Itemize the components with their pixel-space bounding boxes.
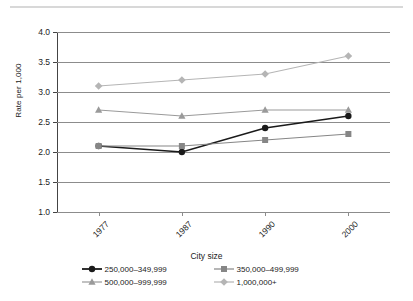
y-tick-label: 3.5 <box>24 57 50 67</box>
x-tick-mark <box>182 212 183 216</box>
legend-marker-triangle-icon <box>82 277 102 287</box>
data-point-marker <box>178 76 186 84</box>
data-point-marker <box>345 131 351 137</box>
y-tick-label: 1.5 <box>24 177 50 187</box>
data-point-marker <box>95 106 102 113</box>
y-tick-label: 4.0 <box>24 27 50 37</box>
plot-area <box>57 32 390 212</box>
legend-label: 1,000,000+ <box>237 278 277 287</box>
legend-item-2[interactable]: 500,000–999,999 <box>82 277 200 287</box>
series-line <box>99 116 349 152</box>
y-tick-label: 3.0 <box>24 87 50 97</box>
x-tick-label: 1977 <box>75 219 110 254</box>
data-point-marker <box>95 82 103 90</box>
data-point-marker <box>221 266 227 272</box>
data-point-marker <box>345 52 353 60</box>
x-tick-label: 2000 <box>325 219 360 254</box>
data-point-marker <box>96 143 102 149</box>
data-point-marker <box>88 266 94 272</box>
legend-item-1[interactable]: 350,000–499,999 <box>214 264 332 274</box>
x-tick-label: 1990 <box>242 219 277 254</box>
x-axis-line <box>57 212 390 213</box>
y-tick-label: 1.0 <box>24 207 50 217</box>
data-point-marker <box>262 137 268 143</box>
legend-row-1: 250,000–349,999 350,000–499,999 <box>0 264 413 274</box>
legend-label: 350,000–499,999 <box>237 265 299 274</box>
data-point-marker <box>261 70 269 78</box>
legend-marker-square-icon <box>214 264 234 274</box>
data-point-marker <box>179 143 185 149</box>
series-line <box>99 56 349 86</box>
data-point-marker <box>262 125 268 131</box>
legend-row-2: 500,000–999,999 1,000,000+ <box>0 277 413 287</box>
x-tick-label: 1987 <box>159 219 194 254</box>
chart-legend: 250,000–349,999 350,000–499,999 500,000–… <box>0 264 413 290</box>
x-tick-mark <box>265 212 266 216</box>
x-tick-mark <box>348 212 349 216</box>
data-point-marker <box>179 149 185 155</box>
series-line <box>99 110 349 116</box>
x-tick-mark <box>99 212 100 216</box>
legend-marker-circle-icon <box>82 264 102 274</box>
legend-label: 500,000–999,999 <box>105 278 167 287</box>
legend-label: 250,000–349,999 <box>105 265 167 274</box>
y-tick-label: 2.5 <box>24 117 50 127</box>
y-tick-label: 2.0 <box>24 147 50 157</box>
series-layer <box>57 32 390 212</box>
legend-marker-diamond-icon <box>214 277 234 287</box>
data-point-marker <box>345 113 351 119</box>
line-chart-figure: Rate per 1,000 1.01.52.02.53.03.54.0 197… <box>0 0 413 301</box>
legend-item-3[interactable]: 1,000,000+ <box>214 277 332 287</box>
data-point-marker <box>220 278 228 286</box>
x-axis-title: City size <box>0 251 413 261</box>
legend-item-0[interactable]: 250,000–349,999 <box>82 264 200 274</box>
y-axis-title: Rate per 1,000 <box>14 41 23 141</box>
